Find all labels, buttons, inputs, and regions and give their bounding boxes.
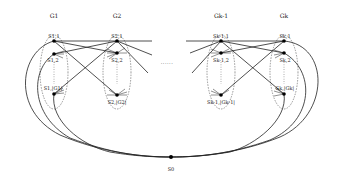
node-label: Sk-1,1 xyxy=(213,34,229,39)
group-label-g2: G2 xyxy=(113,13,122,19)
diagram-canvas xyxy=(0,0,337,183)
node-label: S1,1 xyxy=(48,34,59,39)
group-label-gk: Gk xyxy=(280,13,288,19)
fan-edges xyxy=(54,48,284,96)
ellipsis: ...... xyxy=(161,60,174,65)
node-label: Sk-1,|Gk-1| xyxy=(207,100,235,105)
node-label: S1,2 xyxy=(47,58,58,63)
node-label: Sk,2 xyxy=(279,58,290,63)
node-label: S2,1 xyxy=(111,34,122,39)
nodes xyxy=(52,39,286,159)
node-label: Sk,|Gk| xyxy=(276,86,294,91)
group-label-g1: G1 xyxy=(50,13,59,19)
node-label: S2,|G2| xyxy=(108,100,127,105)
node-label: Sk-1,2 xyxy=(213,58,229,63)
node-label: Sk,1 xyxy=(279,34,290,39)
group-label-gk-1: Gk-1 xyxy=(214,13,228,19)
node-label: S2,2 xyxy=(111,58,122,63)
root-label: S0 xyxy=(168,167,175,172)
node-label: S1,|G1| xyxy=(44,86,63,91)
